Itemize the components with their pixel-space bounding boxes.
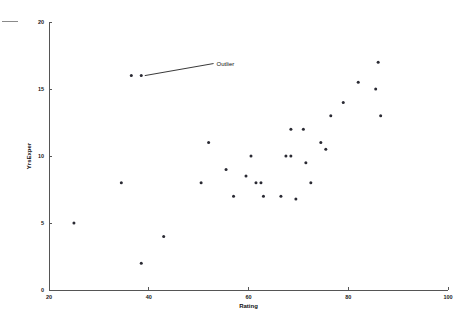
data-point [207,141,210,144]
y-tick-label-0: 0 [41,287,44,293]
data-points [72,61,382,265]
x-tick-label-40: 40 [146,294,152,300]
data-point [319,141,322,144]
y-tick-label-20: 20 [38,19,44,25]
data-point [289,155,292,158]
data-point [259,181,262,184]
annotations: Outlier [145,61,234,76]
data-point [342,101,345,104]
data-point [329,114,332,117]
data-point [254,181,257,184]
data-point [140,262,143,265]
data-point [324,148,327,151]
data-point [289,128,292,131]
x-tick-label-80: 80 [345,294,351,300]
data-point [245,175,248,178]
data-point [309,181,312,184]
axis-titles: RatingYrsExper [26,142,258,309]
data-point [279,195,282,198]
data-point [379,114,382,117]
data-point [225,168,228,171]
top-left-rule [2,21,18,22]
data-point [294,197,297,200]
data-point [130,74,133,77]
data-point [120,181,123,184]
data-point [284,155,287,158]
data-point [302,128,305,131]
data-point [162,235,165,238]
data-point [200,181,203,184]
data-point [374,88,377,91]
annotation-label-outlier: Outlier [217,61,235,67]
annotation-leader-line [145,64,214,76]
x-tick-label-100: 100 [443,294,452,300]
data-point [140,74,143,77]
axes: 2040608010005101520 [38,19,453,300]
scatter-chart: 2040608010005101520 Outlier RatingYrsExp… [0,0,472,327]
y-tick-label-15: 15 [38,86,44,92]
x-axis-title: Rating [239,303,258,309]
data-point [72,222,75,225]
y-axis-title: YrsExper [26,142,32,169]
data-point [304,161,307,164]
y-tick-label-5: 5 [41,220,44,226]
x-tick-label-60: 60 [245,294,251,300]
chart-canvas: 2040608010005101520 Outlier RatingYrsExp… [0,0,472,327]
x-tick-label-20: 20 [46,294,52,300]
data-point [262,195,265,198]
data-point [249,155,252,158]
y-tick-label-10: 10 [38,153,44,159]
data-point [232,195,235,198]
data-point [357,81,360,84]
data-point [377,61,380,64]
